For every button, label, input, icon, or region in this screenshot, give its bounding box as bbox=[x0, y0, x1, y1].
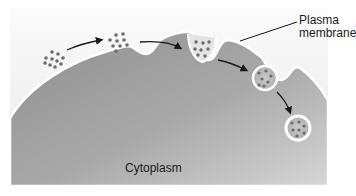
plasma-membrane-label-line2: membrane bbox=[299, 27, 356, 40]
plasma-membrane-label: Plasma membrane bbox=[299, 14, 356, 40]
cytoplasm-label: Cytoplasm bbox=[125, 162, 182, 175]
